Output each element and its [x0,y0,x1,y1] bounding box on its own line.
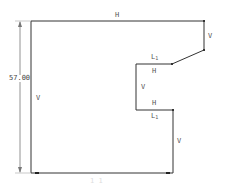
vertex-markers [171,20,205,111]
constraint-length-chamfer-top: L1 [151,54,158,62]
width-dimension-value[interactable]: 1 1 [90,178,103,185]
constraint-vertical-right-lower: V [177,138,181,145]
label-l-subscript: 1 [155,114,158,120]
constraint-vertical-left: V [36,95,40,102]
constraint-horizontal-notch-bottom: H [152,100,156,107]
label-l-subscript: 1 [155,55,158,61]
constraint-vertical-notch-left: V [141,84,145,91]
constraint-horizontal-top: H [115,12,119,19]
constraint-vertical-right-upper: V [208,33,212,40]
height-dimension[interactable] [15,21,31,173]
constraint-length-notch-bottom: L1 [151,113,158,121]
constraint-horizontal-notch-top: H [152,68,156,75]
height-dimension-value[interactable]: 57.00 [9,75,30,82]
profile-sketch [0,0,226,193]
profile-outline[interactable] [31,21,204,173]
